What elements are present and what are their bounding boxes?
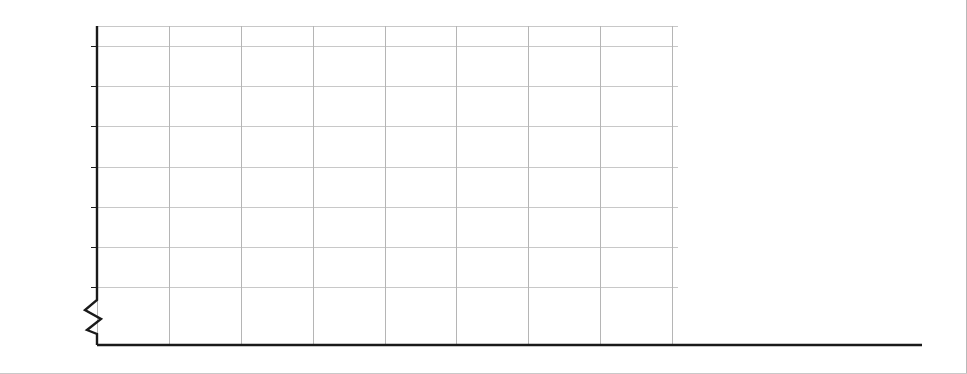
chart-canvas <box>0 0 967 374</box>
y-axis-line <box>85 26 101 345</box>
line-chart <box>0 0 967 374</box>
vertical-gridlines <box>98 26 673 345</box>
axes <box>85 26 922 345</box>
horizontal-gridlines <box>97 27 678 288</box>
